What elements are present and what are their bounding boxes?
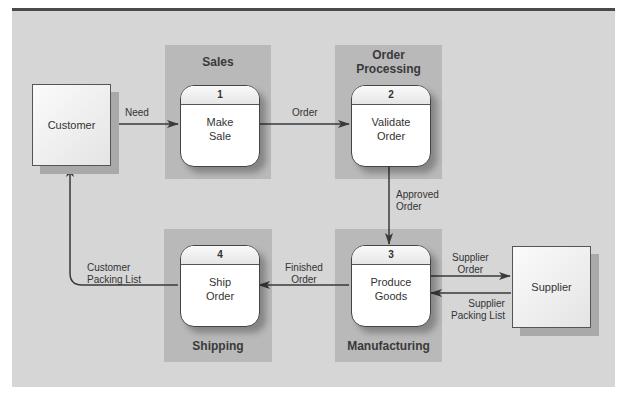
flow-label-line1: Finished	[285, 262, 323, 274]
flow-label-need: Need	[125, 107, 149, 119]
process-number: 3	[352, 246, 430, 265]
flow-label-finished-order: Finished Order	[285, 262, 323, 286]
flow-label-approved-order: Approved Order	[396, 189, 439, 213]
process-label-line1: Ship	[181, 275, 259, 289]
process-3-produce-goods: 3 Produce Goods	[351, 245, 431, 327]
flow-label-line1: Approved	[396, 189, 439, 201]
flow-label-customer-packing-list: Customer Packing List	[87, 262, 141, 286]
entity-customer-label: Customer	[48, 119, 96, 131]
flow-label-supplier-order: Supplier Order	[452, 252, 489, 276]
flow-label-line1: Supplier	[451, 298, 505, 310]
flow-label-line2: Order	[285, 274, 323, 286]
flow-arrows	[0, 0, 628, 396]
process-label-line2: Order	[352, 129, 430, 143]
process-label-line2: Goods	[352, 289, 430, 303]
process-number: 4	[181, 246, 259, 265]
flow-label-line2: Order	[452, 264, 489, 276]
process-label: Make Sale	[181, 105, 259, 143]
entity-customer: Customer	[32, 84, 111, 166]
process-2-validate-order: 2 Validate Order	[351, 85, 431, 167]
process-label-line1: Make	[181, 115, 259, 129]
flow-label-line2: Packing List	[451, 310, 505, 322]
entity-supplier: Supplier	[512, 246, 591, 328]
process-label-line1: Validate	[352, 115, 430, 129]
process-number: 1	[181, 86, 259, 105]
flow-label-supplier-packing-list: Supplier Packing List	[451, 298, 505, 322]
process-number: 2	[352, 86, 430, 105]
flow-label-line1: Customer	[87, 262, 141, 274]
flow-label-line2: Order	[396, 201, 439, 213]
process-label-line2: Sale	[181, 129, 259, 143]
entity-supplier-label: Supplier	[531, 281, 571, 293]
process-label-line1: Produce	[352, 275, 430, 289]
process-label: Ship Order	[181, 265, 259, 303]
process-label-line2: Order	[181, 289, 259, 303]
process-1-make-sale: 1 Make Sale	[180, 85, 260, 167]
flow-label-line2: Packing List	[87, 274, 141, 286]
process-label: Validate Order	[352, 105, 430, 143]
flow-label-line1: Supplier	[452, 252, 489, 264]
process-4-ship-order: 4 Ship Order	[180, 245, 260, 327]
flow-label-order: Order	[292, 107, 318, 119]
process-label: Produce Goods	[352, 265, 430, 303]
